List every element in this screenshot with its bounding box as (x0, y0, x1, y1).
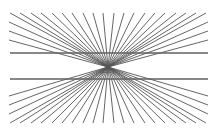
hering-illusion-figure (0, 0, 219, 133)
